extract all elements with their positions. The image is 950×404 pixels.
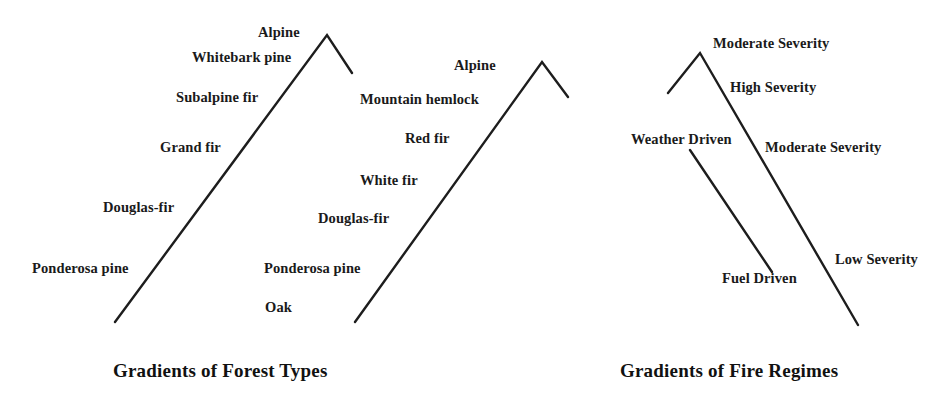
forest-label-white-fir: White fir — [360, 172, 418, 188]
forest-label-mountain-hemlock: Mountain hemlock — [360, 91, 479, 107]
forest-label-red-fir: Red fir — [405, 130, 450, 146]
forest-label-alpine-coastal: Alpine — [454, 57, 496, 73]
fire-label-weather-driven: Weather Driven — [631, 131, 732, 147]
fire-driver-line — [690, 150, 772, 272]
fire-label-low-severity: Low Severity — [835, 251, 918, 267]
forest-label-douglas-fir-inland: Douglas-fir — [103, 199, 174, 215]
forest-label-douglas-fir-coastal: Douglas-fir — [318, 210, 389, 226]
forest-label-ponderosa-pine-inland: Ponderosa pine — [32, 260, 129, 276]
forest-label-subalpine-fir: Subalpine fir — [176, 89, 258, 105]
fire-label-moderate-severity-top: Moderate Severity — [713, 35, 829, 51]
fire-label-moderate-severity-mid: Moderate Severity — [765, 139, 881, 155]
forest-inland-mountain-line — [115, 35, 352, 322]
forest-label-alpine-inland: Alpine — [258, 24, 300, 40]
fire-label-high-severity: High Severity — [730, 79, 816, 95]
caption-forest-types: Gradients of Forest Types — [113, 360, 328, 382]
forest-label-grand-fir: Grand fir — [160, 139, 221, 155]
caption-fire-regimes: Gradients of Fire Regimes — [620, 360, 838, 382]
forest-label-ponderosa-pine-coastal: Ponderosa pine — [264, 260, 361, 276]
figure-canvas: Alpine Whitebark pine Subalpine fir Gran… — [0, 0, 950, 404]
fire-label-fuel-driven: Fuel Driven — [722, 270, 797, 286]
forest-label-oak: Oak — [265, 299, 292, 315]
forest-label-whitebark-pine: Whitebark pine — [192, 49, 291, 65]
